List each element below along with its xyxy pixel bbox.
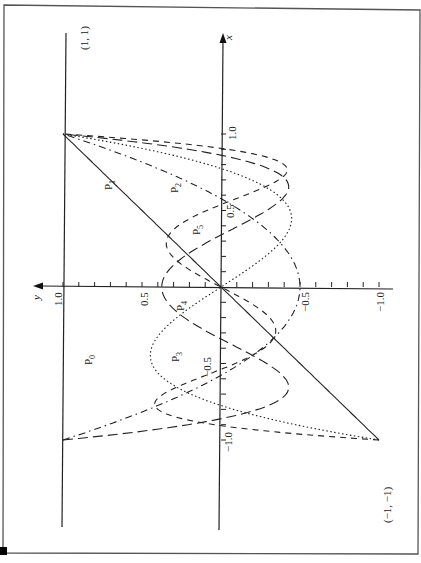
y-tick-label-minus-0.5: −0.5 (299, 292, 311, 312)
x-axis-label: x (222, 35, 234, 41)
legendre-chart: x y 1.0 0.5 −0.5 −1.0 1.0 0.5 −0.5 −1.0 … (0, 0, 421, 563)
point-label-bottom: (−1, −1) (381, 486, 394, 523)
y-tick-label-0.5: 0.5 (138, 292, 150, 306)
p0-line (62, 33, 66, 527)
svg-text:P3: P3 (169, 352, 184, 362)
y-tick-label-1: 1.0 (52, 292, 64, 306)
series-label-p4: P4 (174, 301, 189, 311)
svg-text:P0: P0 (82, 355, 97, 365)
svg-text:P1: P1 (102, 180, 117, 190)
x-tick-label-minus-0.5: −0.5 (201, 357, 213, 377)
svg-text:P4: P4 (174, 301, 189, 311)
series-label-p3: P3 (169, 352, 184, 362)
svg-text:P2: P2 (168, 183, 183, 193)
y-axis-label: y (30, 295, 42, 301)
series-label-p0: P0 (82, 355, 97, 365)
y-axis-arrow-icon (33, 283, 43, 290)
series-label-p5: P5 (190, 225, 205, 235)
x-tick-label-minus-1: −1.0 (222, 432, 234, 452)
x-tick-label-0.5: 0.5 (224, 204, 236, 218)
y-axis (40, 286, 393, 289)
svg-text:P5: P5 (190, 225, 205, 235)
point-label-top: (1, 1) (78, 26, 91, 50)
y-tick-label-minus-1: −1.0 (374, 292, 386, 312)
series-label-p2: P2 (168, 183, 183, 193)
series-label-p1: P1 (102, 180, 117, 190)
corner-marker (0, 547, 7, 555)
x-tick-label-1: 1.0 (226, 126, 238, 140)
